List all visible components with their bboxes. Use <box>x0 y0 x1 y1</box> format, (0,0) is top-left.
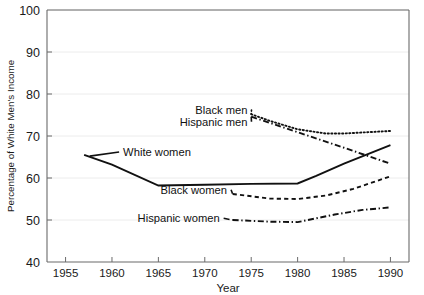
y-tick-label-90: 90 <box>26 46 40 60</box>
series-label-hispanic-women: Hispanic women <box>138 212 220 224</box>
series-label-hispanic-men: Hispanic men <box>180 116 248 128</box>
y-tick-label-100: 100 <box>19 4 40 18</box>
chart-container: 4050607080901001955196019651970197519801… <box>0 0 424 295</box>
x-tick-label-1985: 1985 <box>331 267 357 279</box>
series-label-black-men: Black men <box>195 104 247 116</box>
x-axis-title: Year <box>216 282 239 294</box>
x-tick-label-1955: 1955 <box>53 267 79 279</box>
y-axis-title: Percentage of White Men's Income <box>5 59 16 212</box>
x-tick-label-1960: 1960 <box>99 267 125 279</box>
y-tick-label-60: 60 <box>26 172 40 186</box>
leader-white-women <box>90 152 119 156</box>
y-tick-label-80: 80 <box>26 88 40 102</box>
x-tick-label-1980: 1980 <box>285 267 311 279</box>
series-label-black-women: Black women <box>161 184 228 196</box>
x-tick-label-1975: 1975 <box>238 267 264 279</box>
series-line-black-women <box>233 176 391 199</box>
x-tick-label-1970: 1970 <box>192 267 218 279</box>
leader-black-women <box>231 190 233 194</box>
x-tick-label-1990: 1990 <box>378 267 404 279</box>
y-tick-label-70: 70 <box>26 130 40 144</box>
series-line-hispanic-men <box>251 117 390 164</box>
line-chart-svg: 4050607080901001955196019651970197519801… <box>0 0 424 295</box>
y-tick-label-50: 50 <box>26 214 40 228</box>
y-tick-label-40: 40 <box>26 256 40 270</box>
x-tick-label-1965: 1965 <box>146 267 172 279</box>
series-label-white-women: White women <box>123 146 191 158</box>
